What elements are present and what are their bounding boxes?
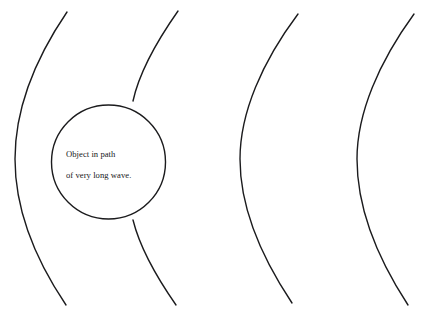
wave-diffraction-figure: Object in path of very long wave. bbox=[0, 0, 424, 318]
wavefront-4 bbox=[357, 14, 414, 305]
wavefront-1 bbox=[15, 12, 67, 305]
object-circle bbox=[52, 105, 166, 219]
diagram-canvas bbox=[0, 0, 424, 318]
wavefront-2-upper bbox=[133, 11, 178, 101]
wavefront-2-lower bbox=[133, 220, 176, 305]
wavefront-3 bbox=[240, 14, 298, 303]
